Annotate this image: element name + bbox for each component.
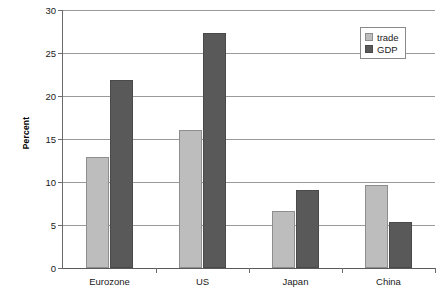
y-tick-mark bbox=[58, 53, 63, 54]
legend-item-trade: trade bbox=[365, 31, 399, 43]
y-tick-label: 20 bbox=[45, 91, 56, 102]
bar-chart: Percent 051015202530 EurozoneUSJapanChin… bbox=[0, 0, 444, 301]
y-tick-mark bbox=[58, 268, 63, 269]
x-tick-mark bbox=[342, 268, 343, 273]
y-tick-label: 15 bbox=[45, 134, 56, 145]
x-tick-label: Eurozone bbox=[89, 276, 130, 287]
bar-trade-eurozone bbox=[86, 157, 109, 268]
legend-label: trade bbox=[377, 32, 399, 43]
bar-trade-japan bbox=[272, 211, 295, 268]
y-tick-label: 5 bbox=[51, 220, 56, 231]
chart-legend: tradeGDP bbox=[360, 27, 406, 59]
y-tick-mark bbox=[58, 139, 63, 140]
y-tick-mark bbox=[58, 182, 63, 183]
x-tick-label: US bbox=[196, 276, 209, 287]
x-tick-mark bbox=[249, 268, 250, 273]
bar-gdp-china bbox=[389, 222, 412, 268]
bar-gdp-japan bbox=[296, 190, 319, 268]
bar-gdp-us bbox=[203, 33, 226, 268]
gridline bbox=[63, 10, 435, 11]
legend-swatch-gdp-icon bbox=[365, 45, 373, 53]
y-tick-mark bbox=[58, 10, 63, 11]
y-tick-label: 25 bbox=[45, 48, 56, 59]
bar-gdp-eurozone bbox=[110, 80, 133, 268]
legend-swatch-trade-icon bbox=[365, 33, 373, 41]
legend-item-gdp: GDP bbox=[365, 43, 399, 55]
x-tick-mark bbox=[156, 268, 157, 273]
y-axis-title: Percent bbox=[21, 93, 31, 173]
y-tick-label: 10 bbox=[45, 177, 56, 188]
bar-trade-china bbox=[365, 185, 388, 268]
x-tick-label: Japan bbox=[283, 276, 309, 287]
y-tick-label: 0 bbox=[51, 263, 56, 274]
y-tick-mark bbox=[58, 225, 63, 226]
x-tick-label: China bbox=[376, 276, 401, 287]
legend-label: GDP bbox=[377, 44, 398, 55]
y-tick-label: 30 bbox=[45, 5, 56, 16]
bar-trade-us bbox=[179, 130, 202, 268]
x-tick-mark bbox=[435, 268, 436, 273]
y-tick-mark bbox=[58, 96, 63, 97]
